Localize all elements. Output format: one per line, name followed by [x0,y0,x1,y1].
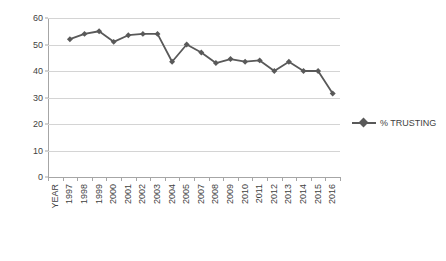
x-axis-tick-mark [106,177,107,181]
x-axis-tick-mark [223,177,224,181]
x-axis-year-label: 1997 [65,184,74,204]
y-axis-tick-label: 0 [38,173,43,182]
x-axis-year-label: 2004 [168,184,177,204]
gridline [48,45,340,46]
x-axis-year-label: 2005 [182,184,191,204]
x-axis-tick-mark [209,177,210,181]
x-axis-tick-mark [282,177,283,181]
gridline [48,18,340,19]
y-axis-tick-mark [45,71,48,72]
x-axis-tick-mark [267,177,268,181]
x-axis-tick-mark [121,177,122,181]
y-axis-tick-label: 20 [33,120,43,129]
x-axis-year-label: 2011 [255,184,264,203]
x-axis-tick-mark [179,177,180,181]
x-axis-tick-mark [340,177,341,181]
chart-container: 0102030405060 YEAR1997199819992000200120… [0,0,446,261]
y-axis-tick-label: 40 [33,67,43,76]
gridline [48,71,340,72]
x-axis-year-label: 2001 [124,184,133,204]
x-axis-tick-mark [77,177,78,181]
x-axis-tick-mark [252,177,253,181]
x-axis-tick-mark [92,177,93,181]
legend: % TRUSTING [352,118,436,128]
gridline [48,98,340,99]
x-axis-year-label: 1999 [95,184,104,204]
y-axis-tick-label: 60 [33,14,43,23]
x-axis-tick-mark [63,177,64,181]
y-axis-tick-mark [45,124,48,125]
x-axis-tick-mark [296,177,297,181]
x-axis-tick-mark [238,177,239,181]
y-axis-tick-label: 50 [33,40,43,49]
x-axis-year-label: 2016 [328,184,337,204]
x-axis-tick-mark [194,177,195,181]
x-axis-title-label: YEAR [51,184,60,209]
x-axis-tick-mark [150,177,151,181]
y-axis-tick-mark [45,97,48,98]
x-axis-year-label: 2015 [314,184,323,204]
x-axis-tick-mark [136,177,137,181]
x-axis-year-label: 2009 [226,184,235,204]
x-axis-year-label: 2003 [153,184,162,204]
x-axis-year-label: 2007 [197,184,206,204]
x-axis-tick-mark [311,177,312,181]
x-axis-tick-mark [48,177,49,181]
gridline [48,151,340,152]
y-axis-tick-mark [45,18,48,19]
x-axis-year-label: 2000 [109,184,118,204]
legend-label-trusting: % TRUSTING [380,119,436,128]
x-axis-year-label: 1998 [80,184,89,204]
x-axis-tick-mark [325,177,326,181]
legend-line-diamond-marker-icon [352,118,376,128]
x-axis-year-label: 2013 [284,184,293,204]
x-axis-year-label: 2012 [270,184,279,204]
y-axis-tick-mark [45,44,48,45]
x-axis-year-label: 2008 [211,184,220,204]
x-axis-year-label: 2014 [299,184,308,204]
y-axis-tick-label: 30 [33,93,43,102]
y-axis-tick-label: 10 [33,146,43,155]
plot-area: 0102030405060 [48,18,340,177]
gridline [48,124,340,125]
x-axis-year-label: 2002 [138,184,147,204]
x-axis-tick-mark [165,177,166,181]
y-axis-tick-mark [45,150,48,151]
x-axis-year-label: 2010 [241,184,250,204]
